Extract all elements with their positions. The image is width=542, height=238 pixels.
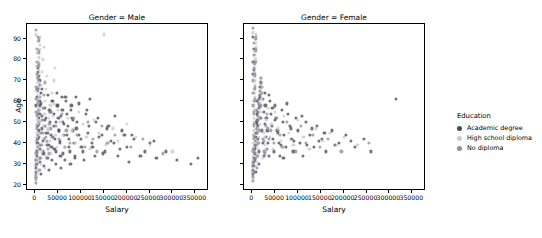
x-tick	[126, 190, 127, 193]
data-point	[356, 143, 359, 146]
x-tick-label: 200000	[331, 194, 355, 201]
data-point	[83, 146, 86, 149]
data-point	[370, 150, 373, 153]
data-point	[318, 146, 321, 149]
data-point	[50, 91, 53, 94]
data-point	[93, 154, 96, 157]
data-point	[162, 152, 165, 155]
data-point	[85, 108, 88, 111]
data-point	[257, 162, 260, 165]
data-point	[34, 29, 37, 32]
data-point	[267, 93, 270, 96]
data-point	[266, 106, 269, 109]
x-tick-label: 50000	[264, 194, 284, 201]
data-point	[63, 146, 66, 149]
x-tick-label: 250000	[137, 194, 161, 201]
x-tick	[388, 190, 389, 193]
data-point	[66, 125, 69, 128]
data-point	[61, 108, 64, 111]
data-point	[308, 148, 311, 151]
data-point	[287, 131, 290, 134]
data-point	[107, 125, 110, 128]
y-tick	[23, 58, 26, 59]
data-point	[111, 127, 114, 130]
legend-label: High school diploma	[467, 134, 532, 142]
plot-area	[243, 23, 425, 190]
x-tick	[194, 190, 195, 193]
y-tick	[23, 38, 26, 39]
data-point	[285, 121, 288, 124]
y-tick	[240, 38, 243, 39]
y-axis-label: Age	[14, 65, 23, 145]
x-tick	[366, 190, 367, 193]
data-point	[175, 158, 178, 161]
data-point	[60, 112, 63, 115]
x-tick-label: 200000	[114, 194, 138, 201]
y-tick	[240, 121, 243, 122]
data-point	[67, 146, 70, 149]
data-point	[46, 148, 49, 151]
data-point	[280, 108, 283, 111]
data-point	[251, 175, 254, 178]
data-point	[281, 146, 284, 149]
facet-panel-0: Gender = Male050000100000150000200000250…	[26, 0, 208, 238]
data-point	[269, 112, 272, 115]
data-point	[296, 118, 299, 121]
data-point	[38, 43, 41, 46]
legend: EducationAcademic degreeHigh school dipl…	[457, 112, 532, 153]
data-point	[262, 156, 265, 159]
legend-title: Education	[457, 112, 532, 120]
data-point	[259, 110, 262, 113]
data-point	[148, 143, 151, 146]
data-point	[260, 77, 263, 80]
data-point	[123, 133, 126, 136]
data-point	[79, 137, 82, 140]
data-point	[55, 91, 58, 94]
data-point	[81, 123, 84, 126]
scatter-plot-figure: Gender = Male050000100000150000200000250…	[0, 0, 542, 238]
data-point	[262, 139, 265, 142]
data-point	[54, 133, 57, 136]
data-point	[38, 56, 41, 59]
data-point	[258, 123, 261, 126]
data-point	[274, 110, 277, 113]
data-point	[315, 127, 318, 130]
legend-item-2: No diploma	[457, 143, 532, 153]
data-point	[49, 127, 52, 130]
legend-swatch-icon	[457, 126, 462, 131]
data-point	[100, 133, 103, 136]
data-point	[70, 104, 73, 107]
data-point	[66, 133, 69, 136]
data-point	[116, 139, 119, 142]
data-point	[276, 127, 279, 130]
data-point	[283, 133, 286, 136]
data-point	[72, 116, 75, 119]
x-tick	[343, 190, 344, 193]
data-point	[59, 154, 62, 157]
data-point	[34, 181, 37, 184]
data-point	[286, 112, 289, 115]
data-point	[323, 131, 326, 134]
data-point	[326, 137, 329, 140]
data-point	[257, 106, 260, 109]
x-tick-label: 300000	[377, 194, 401, 201]
data-point	[68, 150, 71, 153]
data-point	[55, 125, 58, 128]
data-point	[328, 131, 331, 134]
y-tick	[23, 79, 26, 80]
x-tick-label: 250000	[354, 194, 378, 201]
data-point	[310, 127, 313, 130]
data-point	[48, 139, 51, 142]
data-point	[251, 179, 254, 182]
x-tick-label: 50000	[47, 194, 67, 201]
data-point	[293, 139, 296, 142]
y-tick	[240, 142, 243, 143]
data-point	[155, 156, 158, 159]
data-point	[289, 127, 292, 130]
data-point	[153, 139, 156, 142]
data-point	[296, 129, 299, 132]
data-point	[40, 83, 43, 86]
data-point	[268, 154, 271, 157]
data-point	[86, 131, 89, 134]
data-point	[95, 150, 98, 153]
